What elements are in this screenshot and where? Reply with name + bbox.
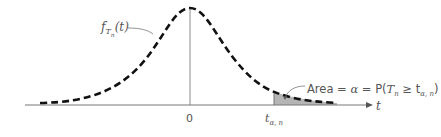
- curve-label-leader: [128, 28, 153, 34]
- t-distribution-diagram: fTn(t) 0 t tα, n Area = α = P(Tn ≥ tα, n…: [0, 0, 441, 137]
- critical-value-label: tα, n: [265, 112, 284, 127]
- curve-label: fTn(t): [100, 20, 129, 38]
- origin-label: 0: [186, 112, 193, 125]
- area-annotation: Area = α = P(Tn ≥ tα, n): [307, 82, 438, 98]
- axis-label-t: t: [376, 99, 381, 113]
- x-axis-arrow-icon: [366, 102, 373, 108]
